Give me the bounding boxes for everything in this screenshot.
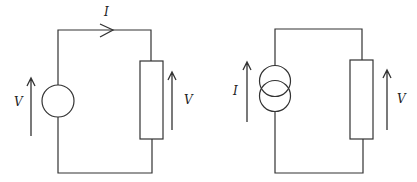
load-voltage-arrow-icon <box>168 72 176 130</box>
load-voltage-label: V <box>397 92 407 106</box>
load-voltage-label: V <box>184 93 194 107</box>
current-source-circuit: I V <box>232 29 407 173</box>
source-voltage-arrow-icon <box>27 78 35 136</box>
source-current-arrow-icon <box>243 62 251 122</box>
voltage-source-circuit: I V V <box>14 5 194 173</box>
source-voltage-label: V <box>14 95 24 109</box>
top-wire <box>275 29 362 66</box>
resistor-symbol <box>140 61 163 139</box>
source-current-label: I <box>232 84 238 98</box>
bottom-wire <box>58 117 152 173</box>
circuit-diagrams: I V V I V <box>0 0 417 182</box>
current-label: I <box>103 5 109 19</box>
load-voltage-arrow-icon <box>383 70 391 130</box>
voltage-source-symbol <box>42 85 74 117</box>
resistor-symbol <box>350 60 373 139</box>
top-wire <box>58 30 151 85</box>
